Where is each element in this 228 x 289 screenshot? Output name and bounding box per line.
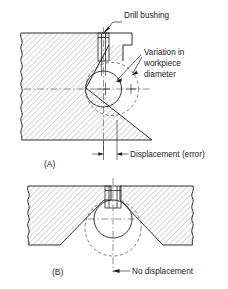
technical-drawing-figure: Drill bushing Variation in workpiece dia…: [0, 0, 228, 289]
panel-a: Drill bushing Variation in workpiece dia…: [18, 11, 205, 170]
variation-label-line1: Variation in: [144, 48, 185, 57]
displacement-label: Displacement (error): [130, 150, 205, 159]
panel-a-caption: (A): [44, 159, 56, 169]
no-displacement-arrow: [113, 269, 130, 273]
panel-b-caption: (B): [52, 267, 64, 277]
drill-bushing-leader-a: [103, 22, 122, 34]
no-displacement-label: No displacement: [132, 267, 194, 276]
variation-arrowhead-2: [132, 71, 138, 76]
panel-b-hatching-left: [25, 183, 120, 253]
variation-leader-2: [133, 57, 142, 73]
panel-b: No displacement (B): [25, 178, 198, 277]
drill-bushing-label: Drill bushing: [124, 11, 169, 20]
panel-b-hatching-right: [118, 183, 198, 253]
variation-label-line3: diameter: [144, 70, 176, 79]
displacement-arrows: [92, 152, 129, 155]
panel-a-top-shelf: [109, 33, 132, 45]
variation-label-line2: workpiece: [143, 59, 181, 68]
panel-a-hatching: [18, 30, 163, 145]
